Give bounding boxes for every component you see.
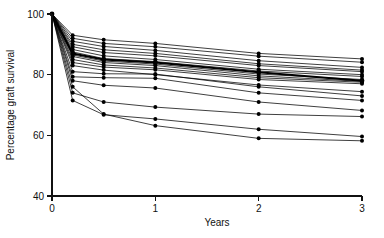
data-point-marker xyxy=(102,100,106,104)
series-line xyxy=(52,14,362,110)
data-point-marker xyxy=(102,38,106,42)
series-layer xyxy=(50,12,365,143)
data-point-marker xyxy=(360,60,364,64)
chart-canvas: 4060801000123 Years Percentage graft sur… xyxy=(0,0,384,238)
data-point-marker xyxy=(257,100,261,104)
data-point-marker xyxy=(102,72,106,76)
y-axis-tick-label: 100 xyxy=(27,9,44,20)
x-axis-tick-label: 2 xyxy=(256,203,262,214)
data-point-marker xyxy=(360,115,364,119)
data-point-marker xyxy=(360,90,364,94)
data-point-marker xyxy=(257,91,261,95)
data-point-marker xyxy=(102,76,106,80)
y-axis-tick-label: 80 xyxy=(33,69,45,80)
data-point-marker xyxy=(257,136,261,140)
series-line xyxy=(52,14,362,81)
data-point-marker xyxy=(102,83,106,87)
data-point-marker xyxy=(153,86,157,90)
x-axis-title: Years xyxy=(204,217,229,228)
data-point-marker xyxy=(360,94,364,98)
data-point-marker xyxy=(71,85,75,89)
data-point-marker xyxy=(257,85,261,89)
graft-survival-chart: 4060801000123 Years Percentage graft sur… xyxy=(0,0,384,238)
series-line xyxy=(52,14,362,117)
x-axis-tick-label: 3 xyxy=(359,203,365,214)
y-axis-tick-label: 60 xyxy=(33,130,45,141)
data-point-marker xyxy=(257,78,261,82)
y-axis-title: Percentage graft survival xyxy=(5,50,16,161)
data-point-marker xyxy=(360,135,364,139)
series-group xyxy=(52,14,364,72)
data-point-marker xyxy=(360,108,364,112)
data-point-marker xyxy=(257,127,261,131)
data-point-marker xyxy=(257,54,261,58)
data-point-marker xyxy=(153,76,157,80)
series-line xyxy=(52,14,362,59)
data-point-marker xyxy=(153,68,157,72)
data-point-marker xyxy=(153,105,157,109)
series-group xyxy=(52,14,364,61)
data-point-marker xyxy=(71,98,75,102)
data-point-marker xyxy=(153,54,157,58)
data-point-marker xyxy=(102,112,106,116)
data-point-marker xyxy=(153,45,157,49)
series-group xyxy=(52,14,364,143)
x-axis-tick-label: 1 xyxy=(153,203,159,214)
data-point-marker xyxy=(257,112,261,116)
data-point-marker xyxy=(153,72,157,76)
x-axis-tick-label: 0 xyxy=(49,203,55,214)
series-line xyxy=(52,14,362,75)
series-group xyxy=(52,14,364,86)
y-axis-tick-label: 40 xyxy=(33,191,45,202)
series-group xyxy=(52,14,364,82)
data-point-marker xyxy=(360,139,364,143)
data-point-marker xyxy=(257,64,261,68)
data-point-marker xyxy=(102,68,106,72)
data-point-marker xyxy=(360,98,364,102)
series-line xyxy=(52,14,362,137)
series-group xyxy=(52,14,364,112)
data-point-marker xyxy=(360,82,364,86)
data-point-marker xyxy=(153,124,157,128)
data-point-marker xyxy=(153,117,157,121)
